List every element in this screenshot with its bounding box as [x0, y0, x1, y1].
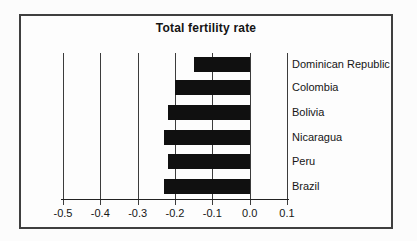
bar-colombia: [175, 80, 250, 95]
bar-bolivia: [168, 105, 250, 120]
x-tick-label: -0.4: [80, 207, 120, 219]
x-tick-label: -0.2: [155, 207, 195, 219]
bar-dominican-republic: [194, 57, 250, 72]
category-label: Bolivia: [292, 105, 324, 120]
category-label: Colombia: [292, 80, 338, 95]
category-label: Brazil: [292, 179, 320, 194]
gridline: [287, 53, 288, 205]
x-tick-label: 0.1: [267, 207, 307, 219]
gridline: [100, 53, 101, 205]
x-tick-label: 0.0: [230, 207, 270, 219]
gridline: [63, 53, 64, 205]
x-tick-label: -0.3: [118, 207, 158, 219]
category-label: Dominican Republic: [292, 57, 390, 72]
bar-brazil: [164, 179, 250, 194]
gridline: [138, 53, 139, 205]
x-tick-label: -0.1: [192, 207, 232, 219]
gridline: [250, 53, 251, 205]
bar-nicaragua: [164, 130, 250, 145]
chart-frame: Total fertility rate Dominican RepublicC…: [19, 14, 393, 229]
category-label: Peru: [292, 154, 315, 169]
category-label: Nicaragua: [292, 130, 342, 145]
bar-peru: [168, 154, 250, 169]
x-axis-line: [61, 199, 289, 200]
x-tick-label: -0.5: [43, 207, 83, 219]
chart-title: Total fertility rate: [21, 21, 391, 35]
